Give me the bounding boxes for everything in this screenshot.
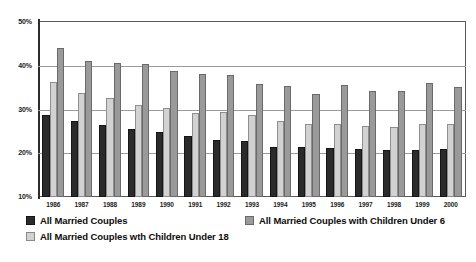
bar <box>369 91 376 197</box>
bar-group <box>156 22 178 197</box>
bar <box>227 75 234 197</box>
bar <box>99 125 106 197</box>
bar <box>192 113 199 197</box>
bar <box>106 98 113 197</box>
bar <box>412 150 419 197</box>
bar <box>248 115 255 197</box>
bar-group <box>71 22 93 197</box>
bar-group <box>383 22 405 197</box>
bar <box>256 84 263 197</box>
x-axis-tick-label: 1994 <box>266 201 294 208</box>
bar-group <box>241 22 263 197</box>
bar <box>390 127 397 197</box>
legend-item-children-under-6[interactable]: All Married Couples with Children Under … <box>245 215 445 226</box>
bar <box>42 115 49 197</box>
bar <box>426 83 433 197</box>
y-axis-label: 20% <box>0 149 32 156</box>
bar <box>50 82 57 197</box>
bar-group <box>355 22 377 197</box>
x-axis-tick-label: 1988 <box>96 201 124 208</box>
legend-item-children-under-18[interactable]: All Married Couples wth Children Under 1… <box>26 231 229 242</box>
bar <box>156 132 163 197</box>
bar <box>440 149 447 197</box>
bar-group <box>298 22 320 197</box>
bar <box>277 121 284 197</box>
bar <box>220 112 227 197</box>
bar-group <box>184 22 206 197</box>
legend-swatch-icon <box>245 216 254 225</box>
bar <box>362 126 369 197</box>
legend-label: All Married Couples wth Children Under 1… <box>40 231 229 242</box>
x-axis-tick-label: 1991 <box>181 201 209 208</box>
bar-chart: 50% 40% 30% 20% 10% 19861987198819891990… <box>0 0 476 262</box>
bar <box>114 63 121 197</box>
bar <box>57 48 64 197</box>
bar <box>419 124 426 198</box>
legend-item-all-married-couples[interactable]: All Married Couples <box>26 215 127 226</box>
bar-group <box>99 22 121 197</box>
legend-label: All Married Couples with Children Under … <box>259 215 445 226</box>
bar <box>78 93 85 197</box>
bar <box>454 87 461 197</box>
bar <box>71 121 78 197</box>
x-axis-tick-label: 1995 <box>295 201 323 208</box>
bar-group <box>213 22 235 197</box>
bar <box>270 147 277 197</box>
bar <box>447 124 454 197</box>
bar <box>312 94 319 197</box>
bar <box>213 140 220 197</box>
bar <box>398 91 405 197</box>
bar-group <box>412 22 434 197</box>
bar <box>298 147 305 197</box>
bar <box>355 149 362 197</box>
bar-series-container <box>39 22 465 197</box>
bar <box>163 108 170 197</box>
bar <box>284 86 291 197</box>
bar <box>135 105 142 197</box>
x-axis-tick-label: 1993 <box>238 201 266 208</box>
bar <box>305 124 312 198</box>
source-note <box>26 255 466 262</box>
bar <box>341 85 348 197</box>
x-axis-tick-label: 2000 <box>437 201 465 208</box>
bar-group <box>326 22 348 197</box>
x-axis-tick-label: 1998 <box>380 201 408 208</box>
legend-label: All Married Couples <box>40 215 127 226</box>
x-axis-tick-label: 1986 <box>39 201 67 208</box>
y-axis-label: 40% <box>0 62 32 69</box>
bar <box>128 129 135 197</box>
bar <box>199 74 206 197</box>
x-axis-tick-label: 1989 <box>124 201 152 208</box>
bar <box>142 64 149 197</box>
y-axis-label: 10% <box>0 193 32 200</box>
y-axis-label: 30% <box>0 106 32 113</box>
legend-swatch-icon <box>26 232 35 241</box>
x-axis-tick-label: 1990 <box>153 201 181 208</box>
x-axis-tick-label: 1987 <box>67 201 95 208</box>
bar <box>170 71 177 197</box>
legend-swatch-icon <box>26 216 35 225</box>
x-axis-tick-label: 1997 <box>351 201 379 208</box>
bar-group <box>128 22 150 197</box>
y-axis-label: 50% <box>0 18 32 25</box>
x-axis-tick-label: 1996 <box>323 201 351 208</box>
x-axis-tick-label: 1999 <box>408 201 436 208</box>
bar <box>85 61 92 197</box>
bar <box>184 136 191 197</box>
bar <box>326 148 333 197</box>
bar-group <box>270 22 292 197</box>
bar-group <box>440 22 462 197</box>
bar-group <box>42 22 64 197</box>
bar <box>241 141 248 197</box>
x-axis-tick-label: 1992 <box>209 201 237 208</box>
bar <box>383 150 390 197</box>
bar <box>334 124 341 198</box>
